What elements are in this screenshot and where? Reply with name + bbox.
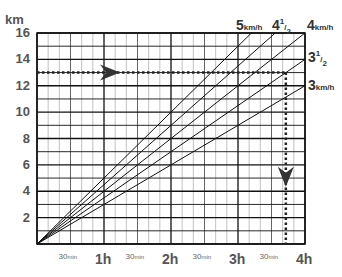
y-tick-label: 12 bbox=[0, 79, 30, 92]
y-tick-label: 6 bbox=[0, 158, 30, 171]
x-tick-label: 1h bbox=[95, 252, 111, 266]
x-tick-label: 4h bbox=[296, 252, 312, 266]
x-tick-minor-label: 30min bbox=[126, 253, 145, 261]
series-label: 4km/h bbox=[307, 18, 333, 32]
series-label: 41/2 bbox=[272, 18, 291, 36]
series-label: 3km/h bbox=[308, 78, 334, 92]
y-tick-label: 16 bbox=[0, 26, 30, 39]
series-label: 31/2 bbox=[308, 50, 327, 68]
y-tick-label: 10 bbox=[0, 105, 30, 118]
x-tick-minor-label: 30min bbox=[260, 253, 279, 261]
y-tick-label: 2 bbox=[0, 211, 30, 224]
x-tick-minor-label: 30min bbox=[59, 253, 78, 261]
y-tick-label: 4 bbox=[0, 184, 30, 197]
x-tick-label: 2h bbox=[162, 252, 178, 266]
y-tick-label: 14 bbox=[0, 52, 30, 65]
speed-distance-chart bbox=[0, 0, 342, 277]
x-tick-label: 3h bbox=[229, 252, 245, 266]
series-label: 5km/h bbox=[236, 18, 262, 32]
x-tick-minor-label: 30min bbox=[193, 253, 212, 261]
y-tick-label: 8 bbox=[0, 132, 30, 145]
